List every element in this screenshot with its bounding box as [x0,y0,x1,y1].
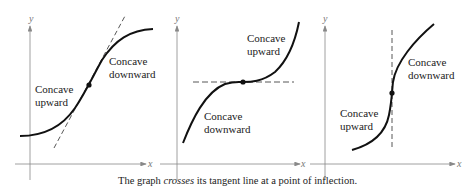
caption-text-end: its tangent line at a point of inflectio… [194,175,357,186]
y-axis-label: y [322,13,328,24]
panel-horizontal-tangent: y x Concave upward Concave downward [160,13,306,180]
inflection-point [389,90,394,95]
x-axis-label: x [147,158,153,169]
label-concave-upward-2: upward [247,45,280,57]
label-concave-downward-2: downward [109,68,156,80]
label-concave-downward-2: downward [204,123,251,135]
inflection-point [86,82,91,87]
label-concave-upward-1: Concave [35,83,74,95]
y-axis-label: y [174,13,180,24]
label-concave-upward-2: upward [35,96,68,108]
x-axis-label: x [456,158,462,169]
label-concave-upward-1: Concave [247,32,286,44]
figure-caption: The graph crosses its tangent line at a … [0,175,475,186]
label-concave-downward-1: Concave [204,110,243,122]
panel-vertical-tangent: y x Concave downward Concave upward [310,13,462,180]
inflection-figure: y x Concave downward Concave upward y x … [0,0,475,192]
label-concave-downward-1: Concave [109,55,148,67]
y-axis-label: y [28,13,34,24]
caption-emphasis: crosses [163,175,194,186]
panel-oblique-tangent: y x Concave downward Concave upward [15,13,156,180]
caption-text-start: The graph [118,175,163,186]
inflection-point [240,79,245,84]
x-axis-label: x [300,158,306,169]
label-concave-upward-1: Concave [340,107,379,119]
label-concave-downward-1: Concave [408,56,447,68]
label-concave-downward-2: downward [408,69,455,81]
label-concave-upward-2: upward [340,120,373,132]
